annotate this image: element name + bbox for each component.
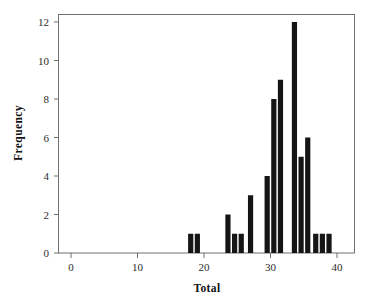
histogram-bar (292, 22, 297, 253)
histogram-bar (225, 215, 230, 254)
x-axis-title: Total (193, 282, 220, 294)
histogram-bar (313, 234, 318, 253)
histogram-bars (188, 22, 332, 253)
x-axis-tick-labels: 0 10 20 30 40 (68, 261, 343, 273)
histogram-bar (188, 234, 193, 253)
y-tick-label: 4 (44, 170, 50, 182)
x-tick-label: 0 (68, 261, 74, 273)
histogram-bar (305, 138, 310, 254)
x-tick-label: 30 (265, 261, 277, 273)
y-axis-ticks (54, 22, 59, 253)
histogram-bar (320, 234, 325, 253)
y-tick-label: 2 (44, 209, 50, 221)
histogram-plot: 0 2 4 6 8 10 12 0 10 20 30 40 Total Freq… (0, 0, 375, 300)
y-axis-tick-labels: 0 2 4 6 8 10 12 (38, 16, 50, 259)
histogram-bar (299, 157, 304, 253)
histogram-bar (271, 99, 276, 253)
y-tick-label: 6 (44, 132, 50, 144)
x-axis-ticks (71, 253, 337, 258)
x-tick-label: 40 (332, 261, 344, 273)
y-tick-label: 10 (38, 55, 50, 67)
y-axis-title: Frequency (12, 105, 25, 161)
y-tick-label: 12 (38, 16, 49, 28)
histogram-bar (326, 234, 331, 253)
histogram-bar (248, 195, 253, 253)
histogram-figure: 0 2 4 6 8 10 12 0 10 20 30 40 Total Freq… (0, 0, 375, 300)
x-tick-label: 10 (132, 261, 144, 273)
histogram-bar (232, 234, 237, 253)
histogram-bar (278, 80, 283, 253)
x-tick-label: 20 (199, 261, 211, 273)
histogram-bar (239, 234, 244, 253)
y-tick-label: 0 (44, 247, 50, 259)
y-tick-label: 8 (44, 93, 50, 105)
histogram-bar (265, 176, 270, 253)
histogram-bar (195, 234, 200, 253)
